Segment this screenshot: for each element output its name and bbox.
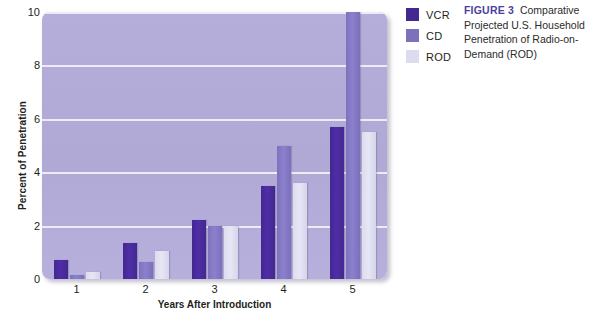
bar-rod-year-5 <box>362 132 376 279</box>
legend: VCRCDROD <box>406 4 458 67</box>
y-axis-tick-label: 8 <box>34 59 40 71</box>
figure-label: FIGURE 3 <box>464 4 514 16</box>
bar-cd-year-4 <box>277 146 291 280</box>
bars-layer <box>42 12 387 279</box>
bar-group <box>328 12 378 279</box>
bar-rod-year-2 <box>155 251 169 279</box>
legend-swatch-rod <box>406 50 419 63</box>
legend-label: CD <box>426 30 442 42</box>
figure-container: Percent of Penetration 0246810 12345 Yea… <box>0 0 589 319</box>
legend-label: VCR <box>426 9 450 21</box>
legend-item-cd: CD <box>406 25 458 46</box>
bar-rod-year-1 <box>86 272 100 279</box>
y-axis-tick-label: 2 <box>34 220 40 232</box>
bar-group <box>121 243 171 279</box>
plot-area <box>42 12 387 279</box>
bar-vcr-year-1 <box>54 260 68 279</box>
figure-caption: FIGURE 3 Comparative Projected U.S. Hous… <box>464 3 588 61</box>
bar-cd-year-2 <box>139 262 153 279</box>
y-axis-tick-labels: 0246810 <box>14 0 40 319</box>
x-axis-tick-labels: 12345 <box>42 283 387 299</box>
bar-vcr-year-4 <box>261 186 275 279</box>
x-axis-tick-label: 5 <box>349 283 355 295</box>
x-axis-tick-label: 3 <box>211 283 217 295</box>
bar-vcr-year-3 <box>192 220 206 279</box>
legend-label: ROD <box>426 51 451 63</box>
x-axis-tick-label: 4 <box>280 283 286 295</box>
y-axis-tick-label: 10 <box>28 6 40 18</box>
y-axis-tick-label: 6 <box>34 113 40 125</box>
y-axis-tick-label: 4 <box>34 166 40 178</box>
bar-group <box>52 260 102 279</box>
legend-item-vcr: VCR <box>406 4 458 25</box>
y-axis-tick-label: 0 <box>34 273 40 285</box>
bar-group <box>259 146 309 280</box>
x-axis-title: Years After Introduction <box>42 299 387 310</box>
bar-rod-year-3 <box>224 226 238 279</box>
bar-vcr-year-2 <box>123 243 137 279</box>
bar-cd-year-5 <box>346 12 360 279</box>
bar-cd-year-3 <box>208 226 222 279</box>
x-axis-tick-label: 2 <box>142 283 148 295</box>
legend-item-rod: ROD <box>406 46 458 67</box>
x-axis-tick-label: 1 <box>73 283 79 295</box>
legend-swatch-cd <box>406 29 419 42</box>
bar-cd-year-1 <box>70 275 84 279</box>
bar-group <box>190 220 240 279</box>
bar-vcr-year-5 <box>330 127 344 279</box>
legend-swatch-vcr <box>406 8 419 21</box>
bar-rod-year-4 <box>293 183 307 279</box>
